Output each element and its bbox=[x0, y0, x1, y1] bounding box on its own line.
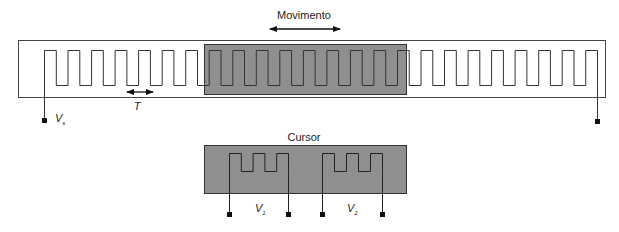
terminal-v1-a bbox=[227, 212, 232, 217]
terminal-vs bbox=[42, 118, 47, 123]
cursor-label: Cursor bbox=[287, 131, 320, 143]
vs-label: Vs bbox=[55, 112, 65, 126]
period-label: T bbox=[134, 100, 142, 112]
slider-overlay[interactable] bbox=[205, 45, 407, 95]
cursor-body[interactable] bbox=[205, 146, 407, 194]
terminal-v2-a bbox=[320, 212, 325, 217]
v1-label: V1 bbox=[255, 202, 266, 216]
terminal-v2-b bbox=[380, 212, 385, 217]
terminal-v1-b bbox=[286, 212, 291, 217]
v2-label: V2 bbox=[347, 202, 358, 216]
inductosyn-diagram: Movimento Vs T Cursor V1 V2 bbox=[0, 0, 619, 232]
movement-label: Movimento bbox=[277, 9, 331, 21]
terminal-scale-end bbox=[595, 119, 600, 124]
